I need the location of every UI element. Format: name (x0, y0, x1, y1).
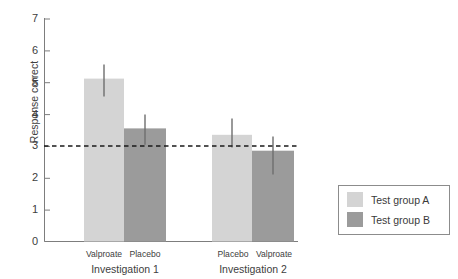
legend-item-test-group-b: Test group B (347, 212, 430, 227)
bar-inv2-placebo (212, 135, 252, 242)
y-tick-label-2: 2 (20, 172, 38, 183)
y-tick-label-0: 0 (20, 236, 38, 247)
y-tick-label-6: 6 (20, 45, 38, 56)
y-tick-label-5: 5 (20, 77, 38, 88)
x-tick-label-inv2-valproate: Valproate (244, 249, 304, 259)
legend-label-b: Test group B (371, 214, 430, 226)
legend-swatch-icon-a (347, 192, 363, 207)
group-label-investigation-1: Investigation 1 (65, 263, 185, 275)
y-tick-label-1: 1 (20, 204, 38, 215)
bar-inv1-valproate (84, 79, 124, 242)
legend-item-test-group-a: Test group A (347, 192, 429, 207)
y-tick-marks (45, 19, 51, 242)
bar-chart: · ·· · ·· · (0, 0, 458, 279)
y-tick-label-4: 4 (20, 109, 38, 120)
group-label-investigation-2: Investigation 2 (193, 263, 313, 275)
y-tick-label-3: 3 (20, 140, 38, 151)
legend-swatch-icon-b (347, 212, 363, 227)
plot-area (0, 0, 458, 279)
legend-label-a: Test group A (371, 194, 429, 206)
legend: Test group A Test group B (338, 185, 450, 235)
y-tick-label-7: 7 (20, 13, 38, 24)
x-tick-label-inv1-placebo: Placebo (117, 249, 173, 259)
